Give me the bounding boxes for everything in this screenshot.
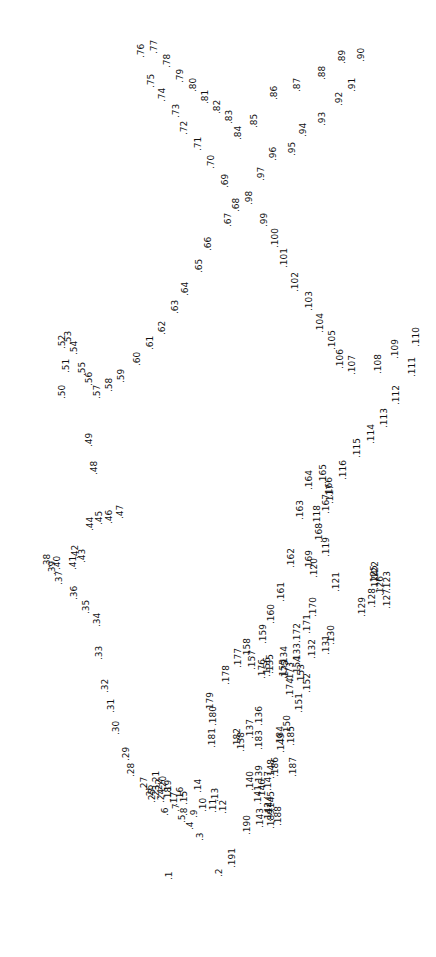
dot-label-169: .169 <box>305 550 314 570</box>
dot-label-158: .158 <box>243 638 252 658</box>
dot-label-13: .13 <box>211 788 220 802</box>
dot-label-110: .110 <box>412 327 421 347</box>
dot-label-48: .48 <box>90 461 99 475</box>
dot-label-104: .104 <box>316 313 325 333</box>
dot-label-63: .63 <box>171 300 180 314</box>
dot-label-78: .78 <box>163 54 172 68</box>
dot-label-161: .161 <box>277 582 286 602</box>
dot-label-60: .60 <box>133 352 142 366</box>
dot-label-182: .182 <box>233 728 242 748</box>
dot-label-65: .65 <box>195 259 204 273</box>
dot-label-172: .172 <box>293 623 302 643</box>
dot-label-62: .62 <box>158 321 167 335</box>
dot-label-163: .163 <box>296 500 305 520</box>
dot-label-69: .69 <box>221 174 230 188</box>
dot-label-54: .54 <box>70 341 79 355</box>
dot-label-98: .98 <box>245 191 254 205</box>
dot-label-77: .77 <box>150 40 159 54</box>
dot-label-14: .14 <box>194 779 203 793</box>
dot-label-113: .113 <box>380 408 389 428</box>
dot-label-70: .70 <box>207 155 216 169</box>
dot-label-61: .61 <box>146 336 155 350</box>
dot-label-71: .71 <box>194 137 203 151</box>
dot-label-102: .102 <box>291 272 300 292</box>
dot-label-129: .129 <box>358 597 367 617</box>
dot-label-58: .58 <box>105 378 114 392</box>
dot-label-33: .33 <box>95 646 104 660</box>
dot-label-180: .180 <box>209 706 218 726</box>
dot-label-64: .64 <box>181 282 190 296</box>
dot-label-100: .100 <box>271 228 280 248</box>
dot-label-76: .76 <box>137 44 146 58</box>
dot-label-131: .131 <box>322 635 331 655</box>
dot-label-132: .132 <box>308 639 317 659</box>
dot-label-90: .90 <box>357 48 366 62</box>
dot-label-43: .43 <box>78 549 87 563</box>
dot-label-67: .67 <box>224 213 233 227</box>
dot-label-176: .176 <box>258 659 267 679</box>
dot-label-115: .115 <box>353 438 362 458</box>
dot-label-4: .4 <box>186 821 195 830</box>
dot-label-49: .49 <box>85 433 94 447</box>
dot-label-34: .34 <box>93 613 102 627</box>
dot-label-171: .171 <box>303 614 312 634</box>
connect-the-dots-canvas: .1.2.3.4.5.6.7.8.9.10.11.12.13.14.15.16.… <box>0 0 436 957</box>
dot-label-106: .106 <box>336 349 345 369</box>
dot-label-30: .30 <box>112 721 121 735</box>
dot-label-128: .128 <box>368 588 377 608</box>
dot-label-190: .190 <box>243 815 252 835</box>
dot-label-31: .31 <box>107 699 116 713</box>
dot-label-162: .162 <box>287 548 296 568</box>
dot-label-178: .178 <box>222 665 231 685</box>
dot-label-91: .91 <box>348 78 357 92</box>
dot-label-108: .108 <box>374 354 383 374</box>
dot-label-159: .159 <box>259 624 268 644</box>
dot-label-191: .191 <box>228 848 237 868</box>
dot-label-59: .59 <box>117 369 126 383</box>
dot-label-187: .187 <box>289 757 298 777</box>
dot-label-66: .66 <box>204 237 213 251</box>
dot-label-35: .35 <box>82 600 91 614</box>
dot-label-89: .89 <box>338 50 347 64</box>
dot-label-79: .79 <box>176 69 185 83</box>
dot-label-164: .164 <box>305 470 314 490</box>
dot-label-168: .168 <box>315 523 324 543</box>
dot-label-88: .88 <box>318 66 327 80</box>
dot-label-82: .82 <box>213 100 222 114</box>
dot-label-87: .87 <box>293 78 302 92</box>
dot-label-85: .85 <box>250 114 259 128</box>
dot-label-95: .95 <box>288 142 297 156</box>
dot-label-28: .28 <box>127 763 136 777</box>
dot-label-151: .151 <box>295 693 304 713</box>
dot-label-183: .183 <box>255 730 264 750</box>
dot-label-160: .160 <box>267 604 276 624</box>
dot-label-94: .94 <box>299 123 308 137</box>
dot-label-72: .72 <box>180 121 189 135</box>
dot-label-93: .93 <box>318 112 327 126</box>
dot-label-12: .12 <box>219 800 228 814</box>
dot-label-112: .112 <box>392 385 401 405</box>
dot-label-73: .73 <box>172 104 181 118</box>
dot-label-97: .97 <box>257 167 266 181</box>
dot-label-57: .57 <box>93 385 102 399</box>
dot-label-8: .8 <box>180 807 189 816</box>
dot-label-109: .109 <box>391 339 400 359</box>
dot-label-96: .96 <box>269 147 278 161</box>
dot-label-74: .74 <box>158 88 167 102</box>
dot-label-32: .32 <box>101 679 110 693</box>
dot-label-174: .174 <box>286 678 295 698</box>
dot-label-27: .27 <box>140 777 149 791</box>
dot-label-10: .10 <box>199 798 208 812</box>
dot-label-185: .185 <box>287 726 296 746</box>
dot-label-40: .40 <box>53 556 62 570</box>
dot-label-136: .136 <box>255 706 264 726</box>
dot-label-105: .105 <box>328 330 337 350</box>
dot-label-121: .121 <box>332 572 341 592</box>
dot-label-167: .167 <box>322 494 331 514</box>
dot-label-86: .86 <box>270 86 279 100</box>
dot-label-29: .29 <box>122 747 131 761</box>
dot-label-24: .24 <box>157 789 166 803</box>
dot-label-3: .3 <box>196 832 205 841</box>
dot-label-2: .2 <box>215 868 224 877</box>
dot-label-47: .47 <box>116 505 125 519</box>
